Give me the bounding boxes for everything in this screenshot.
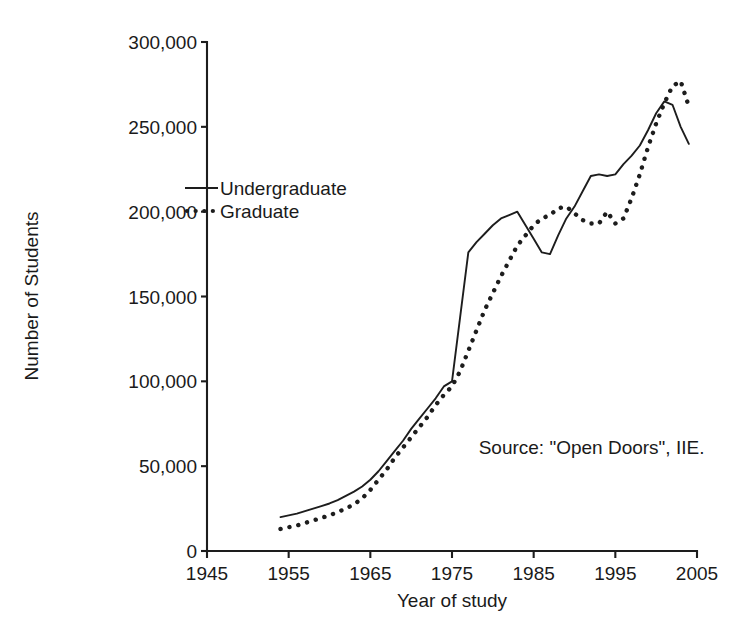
y-tick-label: 300,000 — [128, 32, 197, 53]
x-tick-label: 1985 — [513, 563, 555, 584]
x-tick-label: 1975 — [431, 563, 473, 584]
y-tick-label: 0 — [186, 541, 197, 562]
y-tick-label: 150,000 — [128, 287, 197, 308]
x-tick-label: 1955 — [268, 563, 310, 584]
legend-label-graduate: Graduate — [220, 201, 299, 222]
series-line-graduate — [281, 81, 689, 529]
legend: Undergraduate Graduate — [185, 178, 347, 222]
x-tick-label: 2005 — [676, 563, 718, 584]
y-tick-label: 50,000 — [139, 456, 197, 477]
y-axis-title: Number of Students — [21, 212, 42, 381]
source-annotation: Source: "Open Doors", IIE. — [479, 437, 705, 458]
x-tick-label: 1995 — [594, 563, 636, 584]
chart-canvas: 050,000100,000150,000200,000250,000300,0… — [0, 0, 754, 638]
legend-label-undergraduate: Undergraduate — [220, 178, 347, 199]
x-axis-group: 1945195519651975198519952005 — [186, 551, 718, 584]
line-chart-figure: 050,000100,000150,000200,000250,000300,0… — [0, 0, 754, 638]
y-axis-ticks: 050,000100,000150,000200,000250,000300,0… — [128, 32, 207, 562]
plot-series-group — [281, 81, 689, 529]
x-tick-label: 1945 — [186, 563, 228, 584]
x-tick-label: 1965 — [349, 563, 391, 584]
x-axis-ticks: 1945195519651975198519952005 — [186, 551, 718, 584]
y-tick-label: 100,000 — [128, 371, 197, 392]
y-axis-group: 050,000100,000150,000200,000250,000300,0… — [128, 32, 207, 562]
y-tick-label: 250,000 — [128, 117, 197, 138]
x-axis-title: Year of study — [397, 590, 508, 611]
